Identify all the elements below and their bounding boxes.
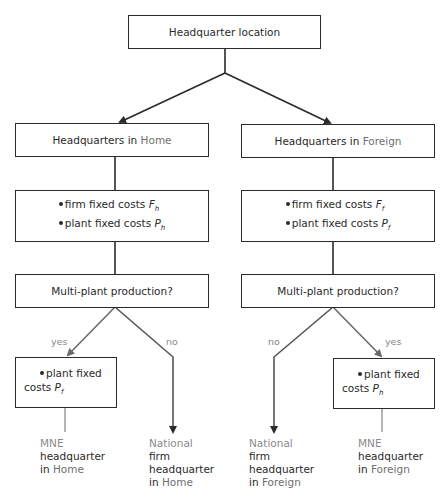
home-hq-label: Headquarters in Home xyxy=(52,133,171,147)
bullet-icon xyxy=(59,202,63,206)
bullet-icon xyxy=(286,221,290,225)
foreign-firm-cost: firm fixed costs Ff xyxy=(286,197,391,216)
home-yes-label: yes xyxy=(51,336,67,347)
foreign-national-outcome: National firm headquarter in Foreign xyxy=(249,437,314,489)
home-costs-node: firm fixed costs Fh plant fixed costs Ph xyxy=(15,190,209,242)
foreign-mne-outcome: MNE headquarter in Foreign xyxy=(358,437,423,476)
foreign-plant-cost: plant fixed costs Pf xyxy=(286,216,391,235)
bullet-icon xyxy=(40,371,44,375)
foreign-hq-label: Headquarters in Foreign xyxy=(274,134,401,148)
home-yes-node: plant fixed costs Pf xyxy=(15,357,117,408)
home-question-label: Multi-plant production? xyxy=(51,284,173,298)
foreign-no-label: no xyxy=(268,336,280,347)
foreign-question-label: Multi-plant production? xyxy=(277,284,399,298)
foreign-yes-node: plant fixed costs Ph xyxy=(333,358,435,409)
home-firm-cost: firm fixed costs Fh xyxy=(59,197,165,216)
foreign-hq-node: Headquarters in Foreign xyxy=(241,124,435,158)
home-mne-outcome: MNE headquarter in Home xyxy=(40,437,105,476)
foreign-costs-node: firm fixed costs Ff plant fixed costs Pf xyxy=(241,190,435,242)
foreign-question-node: Multi-plant production? xyxy=(241,274,435,308)
bullet-icon xyxy=(59,221,63,225)
foreign-yes-label: yes xyxy=(385,336,401,347)
home-hq-node: Headquarters in Home xyxy=(15,123,209,157)
home-plant-cost: plant fixed costs Ph xyxy=(59,216,165,235)
home-no-label: no xyxy=(166,336,178,347)
home-question-node: Multi-plant production? xyxy=(15,274,209,308)
bullet-icon xyxy=(286,202,290,206)
bullet-icon xyxy=(358,372,362,376)
root-label: Headquarter location xyxy=(169,25,280,39)
connector-lines xyxy=(0,0,446,500)
root-node: Headquarter location xyxy=(128,15,321,49)
home-national-outcome: National firm headquarter in Home xyxy=(149,437,214,489)
